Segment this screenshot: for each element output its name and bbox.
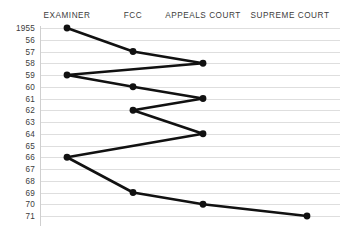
data-point [130, 107, 137, 114]
data-point [200, 60, 207, 67]
data-series-layer [0, 0, 356, 242]
data-point [200, 201, 207, 208]
data-point [64, 25, 71, 32]
data-point [130, 83, 137, 90]
data-point [64, 154, 71, 161]
data-point [130, 48, 137, 55]
series-markers [64, 25, 311, 220]
chart-figure: EXAMINER FCC APPEALS COURT SUPREME COURT… [0, 0, 356, 242]
data-point [200, 95, 207, 102]
data-point [64, 72, 71, 79]
data-point [304, 213, 311, 220]
data-point [200, 130, 207, 137]
data-point [130, 189, 137, 196]
series-line [67, 28, 307, 216]
